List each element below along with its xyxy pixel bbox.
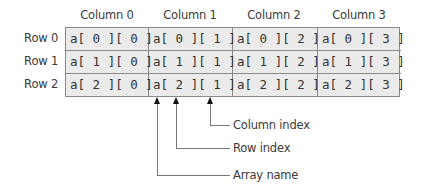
array-cell: a[ 2 ][ 0 ] xyxy=(66,74,149,96)
column-header-2: Column 2 xyxy=(232,8,316,24)
array-cell: a[ 0 ][ 3 ] xyxy=(318,28,401,51)
row-header-0: Row 0 xyxy=(0,27,58,50)
array-cell: a[ 2 ][ 2 ] xyxy=(233,74,318,96)
column-header-3: Column 3 xyxy=(317,8,401,24)
callout-row-index: Row index xyxy=(233,141,290,155)
column-header-1: Column 1 xyxy=(148,8,232,24)
array-cell: a[ 1 ][ 0 ] xyxy=(66,51,149,74)
array-cell: a[ 2 ][ 3 ] xyxy=(318,74,401,96)
leader-line-row-index xyxy=(176,104,177,149)
arrow-up-icon xyxy=(207,97,213,104)
array-cell: a[ 0 ][ 1 ] xyxy=(149,28,233,51)
array-cell: a[ 0 ][ 0 ] xyxy=(66,28,149,51)
row-header-2: Row 2 xyxy=(0,73,58,96)
arrow-up-icon xyxy=(173,97,179,104)
leader-line-column-index xyxy=(210,104,211,126)
leader-line-array-name xyxy=(157,175,230,176)
leader-line-row-index xyxy=(176,148,230,149)
arrow-up-icon xyxy=(154,97,160,104)
array-cell: a[ 1 ][ 3 ] xyxy=(318,51,401,74)
column-header-0: Column 0 xyxy=(65,8,149,24)
row-header-1: Row 1 xyxy=(0,50,58,73)
leader-line-array-name xyxy=(157,104,158,176)
array-cell: a[ 0 ][ 2 ] xyxy=(233,28,318,51)
callout-array-name: Array name xyxy=(233,168,298,182)
array-cell-highlighted: a[ 2 ][ 1 ] xyxy=(149,74,233,96)
callout-column-index: Column index xyxy=(233,118,310,132)
leader-line-column-index xyxy=(210,125,230,126)
array-cell: a[ 1 ][ 1 ] xyxy=(149,51,233,74)
array-grid: a[ 0 ][ 0 ] a[ 0 ][ 1 ] a[ 0 ][ 2 ] a[ 0… xyxy=(65,27,400,97)
array-cell: a[ 1 ][ 2 ] xyxy=(233,51,318,74)
